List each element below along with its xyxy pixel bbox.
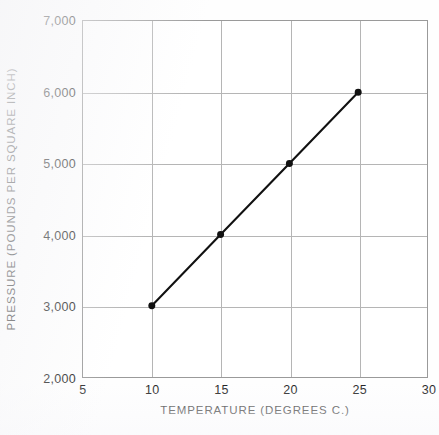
y-tick-label: 6,000	[43, 86, 76, 100]
data-series-line	[83, 21, 427, 377]
y-tick-label: 5,000	[43, 157, 76, 171]
data-point	[217, 231, 224, 238]
y-tick-label: 7,000	[43, 14, 76, 28]
x-tick-label: 5	[79, 383, 86, 397]
data-point	[286, 160, 293, 167]
y-axis-label: PRESSURE (POUNDS PER SQUARE INCH)	[5, 68, 17, 331]
x-tick-label: 20	[283, 383, 298, 397]
x-tick-label: 25	[353, 383, 368, 397]
y-tick-label: 4,000	[43, 229, 76, 243]
series-polyline	[152, 92, 358, 306]
data-point	[355, 89, 362, 96]
chart-page: PRESSURE (POUNDS PER SQUARE INCH) 2,0003…	[0, 0, 439, 435]
x-tick-label: 15	[214, 383, 229, 397]
y-tick-label: 2,000	[43, 372, 76, 386]
data-point	[148, 302, 155, 309]
x-axis-label: TEMPERATURE (DEGREES C.)	[82, 404, 428, 416]
y-axis-label-container: PRESSURE (POUNDS PER SQUARE INCH)	[0, 20, 22, 378]
x-tick-label: 10	[145, 383, 160, 397]
y-tick-label: 3,000	[43, 300, 76, 314]
x-tick-label: 30	[422, 383, 437, 397]
plot-area: 2,0003,0004,0005,0006,0007,000 510152025…	[82, 20, 428, 378]
